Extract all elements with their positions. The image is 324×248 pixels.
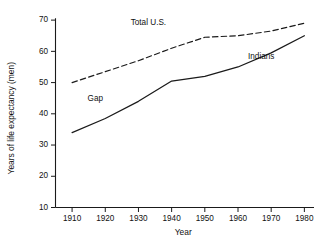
line-chart: 10203040506070 Years of life expectancy … [0,0,324,248]
x-axis-title: Year [175,227,192,237]
x-tick-group: 19101920193019401950196019701980 [63,208,314,223]
y-axis-title: Years of life expectancy (men) [6,62,16,175]
y-tick-label: 70 [39,15,49,24]
annotation-gap: Gap [88,94,104,103]
series-label-indians: Indians [248,52,274,61]
y-axis-group: 10203040506070 Years of life expectancy … [6,15,56,211]
x-tick-label: 1960 [229,214,248,223]
chart-container: 10203040506070 Years of life expectancy … [0,0,324,248]
x-axis-group: 19101920193019401950196019701980 Year [56,208,315,237]
y-tick-label: 50 [39,78,49,87]
x-tick-label: 1910 [63,214,82,223]
x-tick-label: 1970 [262,214,281,223]
x-tick-label: 1940 [163,214,182,223]
x-tick-label: 1980 [295,214,314,223]
series-line-indians [72,36,304,133]
x-tick-label: 1920 [96,214,115,223]
y-tick-label: 30 [39,140,49,149]
series-label-total-u-s: Total U.S. [131,18,167,27]
y-tick-label: 20 [39,171,49,180]
series-label-group: Total U.S.Indians [131,18,275,61]
x-tick-label: 1930 [129,214,148,223]
y-tick-label: 10 [39,203,49,212]
y-tick-group: 10203040506070 [39,15,56,211]
x-tick-label: 1950 [196,214,215,223]
annotation-group: Gap [88,94,104,103]
y-tick-label: 40 [39,109,49,118]
y-tick-label: 60 [39,47,49,56]
series-group [72,23,304,132]
